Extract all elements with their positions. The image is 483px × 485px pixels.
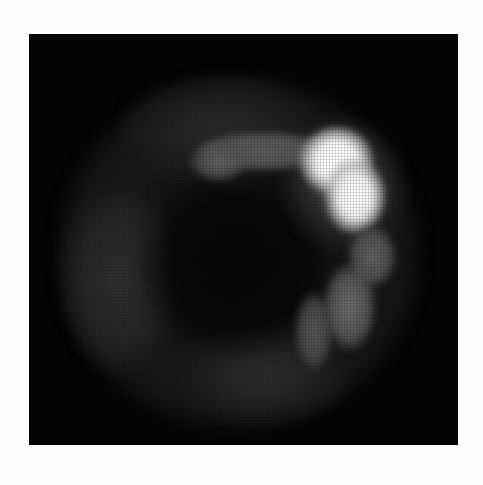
scan-image <box>29 34 458 445</box>
image-noise-texture <box>29 34 458 445</box>
